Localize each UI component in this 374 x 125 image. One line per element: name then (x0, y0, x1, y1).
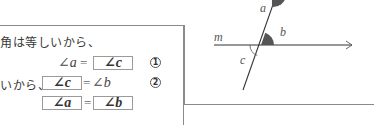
line-m-label: m (214, 30, 223, 44)
angle-a-label: a (260, 1, 266, 15)
angle-b-label: b (280, 25, 286, 39)
angle-a-marker (272, 0, 286, 7)
angle-c-label: c (240, 53, 246, 67)
